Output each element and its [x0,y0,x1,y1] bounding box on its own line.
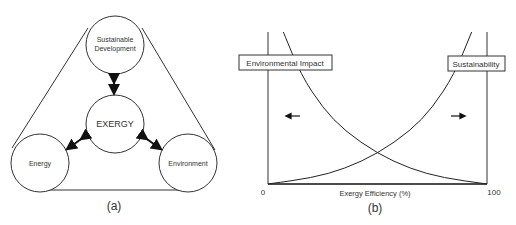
x-axis-label: Exergy Efficiency (%) [339,189,411,198]
caption-b: (b) [368,201,383,215]
caption-a: (a) [107,199,122,213]
figure: Sustainable Development EXERGY Energy En… [0,0,516,225]
node-label-right: Environment [168,160,207,167]
node-label-top-1: Sustainable [97,36,134,43]
arrow-center-right [144,137,158,147]
label-sustainability: Sustainability [452,60,499,69]
arrow-center-left [70,137,84,147]
label-environmental-impact: Environmental Impact [246,59,324,68]
x-max-label: 100 [487,188,501,197]
panel-a: Sustainable Development EXERGY Energy En… [11,16,217,213]
x-min-label: 0 [261,188,266,197]
node-label-left: Energy [29,160,52,168]
node-label-center: EXERGY [96,119,134,129]
panel-b: Environmental Impact Sustainability 0 10… [239,32,505,215]
node-label-top-2: Development [94,45,135,53]
